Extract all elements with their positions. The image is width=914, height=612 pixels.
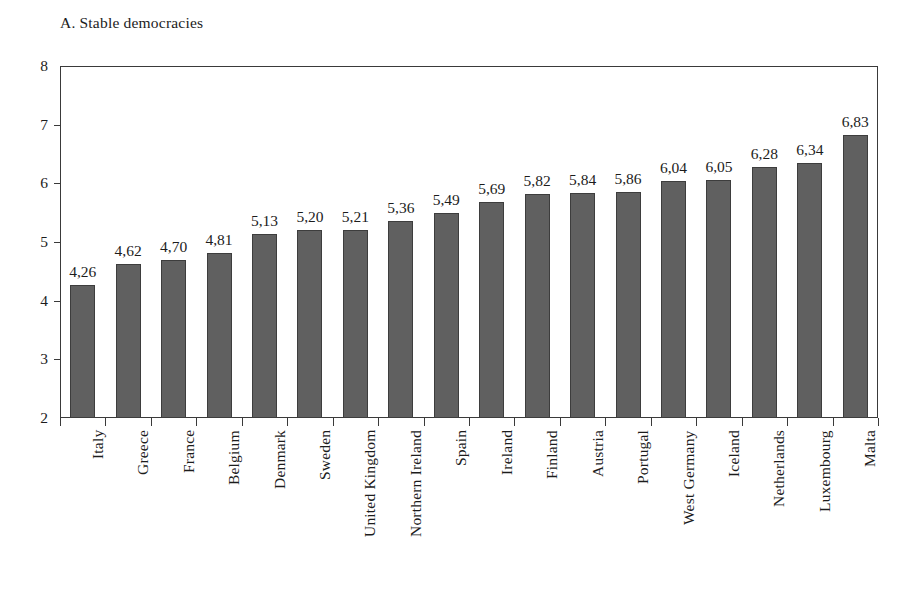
x-axis-category-label: Sweden: [316, 430, 334, 480]
x-axis-tick-mark: [651, 418, 652, 426]
x-axis-category-label: Netherlands: [770, 430, 788, 507]
bar-value-label: 6,28: [751, 145, 778, 163]
x-axis-tick-mark: [287, 418, 288, 426]
bar: [479, 202, 504, 418]
bar: [207, 253, 232, 418]
x-axis-category-label: Greece: [134, 430, 152, 475]
bar: [343, 230, 368, 418]
x-axis-tick-mark: [60, 418, 61, 426]
x-axis-tick-mark: [514, 418, 515, 426]
x-axis-category-label: France: [180, 430, 198, 473]
x-axis-category-label: Luxembourg: [816, 430, 834, 512]
bar: [752, 167, 777, 418]
bar-value-label: 6,83: [842, 113, 869, 131]
bar: [161, 260, 186, 418]
bar-value-label: 5,82: [524, 172, 551, 190]
bar: [388, 221, 413, 418]
x-axis-tick-mark: [742, 418, 743, 426]
bar-value-label: 4,62: [115, 242, 142, 260]
x-axis-category-label: Spain: [452, 430, 470, 466]
x-axis-tick-mark: [696, 418, 697, 426]
x-axis-tick-mark: [878, 418, 879, 426]
x-axis-tick-mark: [560, 418, 561, 426]
bar: [434, 213, 459, 418]
bar: [297, 230, 322, 418]
bar: [570, 193, 595, 418]
bar-value-label: 6,34: [796, 141, 823, 159]
bar: [843, 135, 868, 418]
bar: [116, 264, 141, 418]
x-axis-tick-mark: [424, 418, 425, 426]
bar-series: 4,26Italy4,62Greece4,70France4,81Belgium…: [0, 0, 914, 612]
bar-value-label: 5,84: [569, 171, 596, 189]
x-axis-tick-mark: [151, 418, 152, 426]
x-axis-tick-mark: [196, 418, 197, 426]
x-axis-category-label: Austria: [589, 430, 607, 477]
x-axis-tick-mark: [242, 418, 243, 426]
bar-value-label: 5,86: [614, 170, 641, 188]
bar: [706, 180, 731, 418]
bar: [70, 285, 95, 418]
chart-page: A. Stable democracies 2345678 4,26Italy4…: [0, 0, 914, 612]
x-axis-category-label: Italy: [89, 430, 107, 459]
x-axis-category-label: Belgium: [225, 430, 243, 485]
x-axis-category-label: Northern Ireland: [407, 430, 425, 537]
x-axis-category-label: West Germany: [680, 430, 698, 525]
x-axis-category-label: United Kingdom: [361, 430, 379, 537]
x-axis-tick-mark: [833, 418, 834, 426]
bar: [252, 234, 277, 418]
x-axis-category-label: Denmark: [271, 430, 289, 489]
bar-value-label: 4,70: [160, 238, 187, 256]
bar: [661, 181, 686, 418]
x-axis-category-label: Iceland: [725, 430, 743, 477]
x-axis-tick-mark: [333, 418, 334, 426]
bar-value-label: 5,21: [342, 208, 369, 226]
bar: [525, 194, 550, 418]
bar-value-label: 6,04: [660, 159, 687, 177]
x-axis-tick-mark: [105, 418, 106, 426]
bar-value-label: 5,69: [478, 180, 505, 198]
bar-value-label: 4,26: [69, 263, 96, 281]
x-axis-category-label: Ireland: [498, 430, 516, 475]
bar-value-label: 5,13: [251, 212, 278, 230]
x-axis-tick-mark: [378, 418, 379, 426]
bar: [616, 192, 641, 418]
x-axis-category-label: Finland: [543, 430, 561, 479]
bar-value-label: 5,49: [433, 191, 460, 209]
x-axis-category-label: Portugal: [634, 430, 652, 484]
bar-value-label: 6,05: [705, 158, 732, 176]
bar-value-label: 4,81: [205, 231, 232, 249]
bar-value-label: 5,20: [296, 208, 323, 226]
x-axis-tick-mark: [605, 418, 606, 426]
bar-value-label: 5,36: [387, 199, 414, 217]
x-axis-category-label: Malta: [861, 430, 879, 467]
x-axis-tick-mark: [469, 418, 470, 426]
bar: [797, 163, 822, 418]
x-axis-tick-mark: [787, 418, 788, 426]
